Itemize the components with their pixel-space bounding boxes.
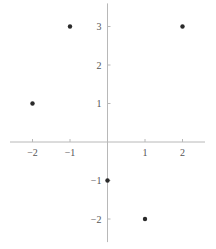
axes [10,3,205,242]
data-point [68,24,72,28]
data-point [180,24,184,28]
scatter-chart: −2−112−2−1123 [0,0,216,249]
x-tick-label: 1 [143,147,148,158]
x-tick-label: −1 [65,147,76,158]
x-tick-label: −2 [27,147,38,158]
data-point [143,217,147,221]
data-point [105,178,109,182]
data-point [30,101,34,105]
y-tick-label: 2 [97,60,102,71]
tick-labels: −2−112−2−1123 [27,21,185,225]
y-tick-label: 1 [97,98,102,109]
y-tick-label: 3 [97,21,102,32]
y-tick-label: −2 [91,214,102,225]
y-tick-label: −1 [91,175,102,186]
x-tick-label: 2 [180,147,185,158]
